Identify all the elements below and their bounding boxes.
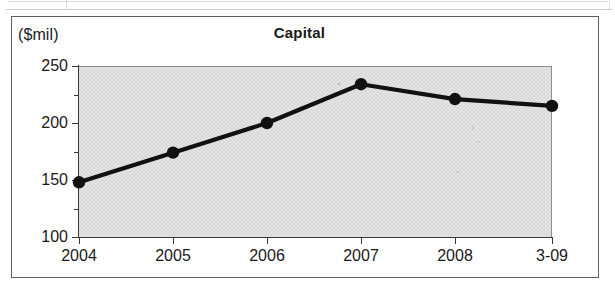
capital-series — [0, 0, 615, 286]
data-point-2007 — [355, 78, 367, 90]
series-line — [79, 84, 552, 182]
data-point-2005 — [167, 146, 179, 158]
data-point-2004 — [73, 176, 85, 188]
data-point-3-09 — [546, 100, 558, 112]
data-point-2006 — [261, 117, 273, 129]
data-point-2008 — [449, 93, 461, 105]
series-markers — [73, 78, 558, 188]
